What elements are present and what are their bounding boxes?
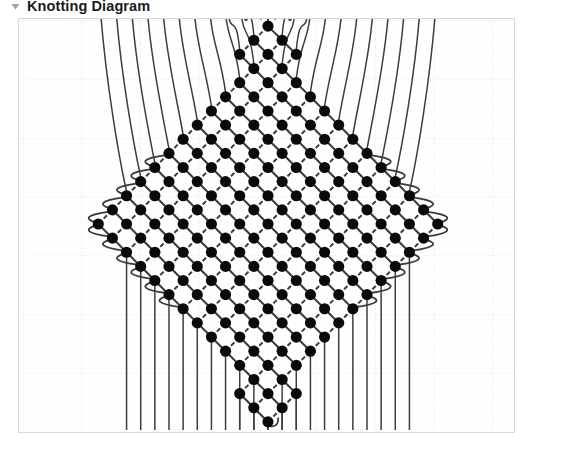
knot-dot (192, 233, 203, 244)
knot-dot (262, 134, 273, 145)
knot-dot (107, 233, 118, 244)
knot-link-solid (356, 256, 363, 263)
knot-dot (248, 91, 259, 102)
knot-link-solid (187, 143, 194, 150)
knot-link-dashed (245, 272, 248, 275)
knot-dot (319, 247, 330, 258)
hanging-cord-top-left (226, 19, 239, 78)
knot-link-solid (243, 171, 250, 178)
knotting-diagram-canvas[interactable] (18, 18, 515, 433)
knot-link-solid (286, 383, 293, 390)
knot-link-solid (314, 213, 321, 220)
hanging-cord-top-left (211, 19, 226, 92)
knot-link-dashed (259, 173, 262, 176)
knot-dot (163, 204, 174, 215)
knot-link-solid (399, 213, 406, 220)
knot-link-solid (243, 227, 250, 234)
knot-link-dashed (217, 187, 220, 190)
knot-link-dashed (217, 215, 220, 218)
knot-dot (262, 275, 273, 286)
knot-link-solid (215, 199, 222, 206)
knot-link-solid (130, 199, 137, 206)
knot-link-dashed (288, 229, 291, 232)
knot-link-dashed (288, 145, 291, 148)
knot-dot (248, 346, 259, 357)
knot-link-dashed (316, 145, 319, 148)
knot-dot (178, 162, 189, 173)
knot-link-solid (257, 100, 264, 107)
knot-link-dashed (273, 46, 276, 49)
panel-header: Knotting Diagram (0, 0, 562, 17)
knotting-diagram-svg (19, 19, 514, 432)
knot-link-solid (229, 326, 236, 333)
knot-link-solid (300, 256, 307, 263)
knot-link-solid (229, 355, 236, 362)
knot-link-solid (314, 157, 321, 164)
knot-link-dashed (387, 272, 390, 275)
knot-dot (248, 402, 259, 413)
triangle-down-icon[interactable] (10, 1, 21, 12)
knot-link-dashed (302, 357, 305, 360)
knot-dot (206, 105, 217, 116)
knot-link-dashed (259, 229, 262, 232)
knot-dot (361, 289, 372, 300)
knot-link-dashed (401, 201, 404, 204)
knot-link-solid (300, 341, 307, 348)
knot-link-solid (286, 44, 293, 51)
knot-dot (107, 204, 118, 215)
knot-link-dashed (288, 314, 291, 317)
knot-link-solid (271, 369, 278, 376)
knot-dot (163, 148, 174, 159)
knot-dot (135, 176, 146, 187)
knot-dot (248, 289, 259, 300)
knot-link-solid (243, 114, 250, 121)
knot-link-solid (356, 227, 363, 234)
knot-dot (149, 190, 160, 201)
knot-link-solid (187, 227, 194, 234)
knot-link-dashed (245, 215, 248, 218)
knot-link-dashed (203, 286, 206, 289)
knot-dot (319, 162, 330, 173)
knot-link-solid (201, 270, 208, 277)
knot-dot (206, 275, 217, 286)
knot-link-solid (187, 284, 194, 291)
knot-link-dashed (245, 300, 248, 303)
knot-link-dashed (245, 385, 248, 388)
knot-link-solid (314, 326, 321, 333)
knot-dot (347, 247, 358, 258)
knot-link-solid (257, 129, 264, 136)
knot-link-solid (215, 312, 222, 319)
knot-link-solid (370, 157, 377, 164)
page-title: Knotting Diagram (27, 0, 150, 13)
knot-link-solid (271, 58, 278, 65)
knot-dot (192, 317, 203, 328)
knot-link-solid (201, 213, 208, 220)
knot-link-dashed (372, 258, 375, 261)
knot-link-dashed (288, 173, 291, 176)
knot-dot (333, 233, 344, 244)
knot-link-solid (215, 341, 222, 348)
knot-link-dashed (415, 244, 418, 247)
knot-link-dashed (132, 215, 135, 218)
knot-link-dashed (288, 258, 291, 261)
hanging-cord-top-right (296, 19, 309, 78)
knot-dot (291, 388, 302, 399)
knot-link-dashed (189, 131, 192, 134)
hanging-cord-top-left (117, 19, 141, 177)
knot-link-dashed (288, 88, 291, 91)
knot-link-solid (300, 143, 307, 150)
knot-link-solid (427, 213, 434, 220)
knot-dot (248, 35, 259, 46)
knot-dot (206, 134, 217, 145)
knot-link-dashed (259, 60, 262, 63)
knot-dot (376, 190, 387, 201)
knot-dot (277, 35, 288, 46)
knot-dot (234, 49, 245, 60)
knot-link-dashed (358, 187, 361, 190)
knot-link-solid (229, 270, 236, 277)
knot-link-solid (286, 129, 293, 136)
knot-dot (262, 331, 273, 342)
knot-dot (390, 261, 401, 272)
knot-dot (305, 233, 316, 244)
knot-link-solid (257, 44, 264, 51)
